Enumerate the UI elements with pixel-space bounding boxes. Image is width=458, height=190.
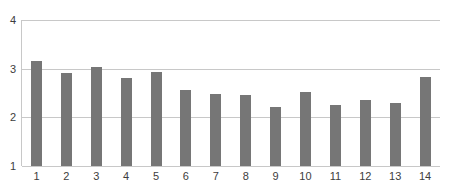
x-tick-label-8: 8 [234, 170, 258, 182]
x-tick-label-13: 13 [383, 170, 407, 182]
x-tick-label-2: 2 [54, 170, 78, 182]
x-tick-label-10: 10 [293, 170, 317, 182]
bar-3 [91, 67, 102, 166]
bar-9 [270, 107, 281, 166]
x-tick-label-1: 1 [24, 170, 48, 182]
bar-6 [180, 90, 191, 166]
bar-8 [240, 95, 251, 166]
x-tick-label-9: 9 [264, 170, 288, 182]
x-tick-label-6: 6 [174, 170, 198, 182]
x-tick-label-14: 14 [413, 170, 437, 182]
bar-10 [300, 92, 311, 166]
bar-5 [151, 72, 162, 166]
x-tick-label-5: 5 [144, 170, 168, 182]
bar-chart: 1234 1 2 3 4 5 6 7 8 9 10 11 12 13 14 [0, 0, 458, 190]
bar-14 [420, 77, 431, 166]
bar-2 [61, 73, 72, 166]
bar-13 [390, 103, 401, 166]
bars-layer [0, 0, 458, 190]
x-tick-label-7: 7 [204, 170, 228, 182]
bar-12 [360, 100, 371, 166]
bar-1 [31, 61, 42, 166]
bar-11 [330, 105, 341, 166]
bar-7 [210, 94, 221, 167]
bar-4 [121, 78, 132, 166]
x-tick-label-3: 3 [84, 170, 108, 182]
x-tick-label-12: 12 [353, 170, 377, 182]
x-tick-label-4: 4 [114, 170, 138, 182]
x-tick-label-11: 11 [323, 170, 347, 182]
x-axis-tick-labels: 1 2 3 4 5 6 7 8 9 10 11 12 13 14 [0, 170, 458, 188]
